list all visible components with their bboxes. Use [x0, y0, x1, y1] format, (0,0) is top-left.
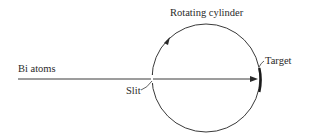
- target-arc: [259, 68, 260, 92]
- slit-label: Slit: [126, 86, 141, 97]
- target-label: Target: [265, 56, 291, 67]
- beam-label: Bi atoms: [18, 64, 56, 75]
- target-leader: [259, 61, 264, 67]
- beam-arrow-icon: [250, 76, 258, 82]
- rotation-arrow-icon: [164, 37, 170, 45]
- cylinder-label: Rotating cylinder: [170, 8, 243, 19]
- rotating-cylinder-diagram: Bi atoms Slit Rotating cylinder Target: [0, 0, 309, 137]
- slit-leader: [141, 81, 152, 90]
